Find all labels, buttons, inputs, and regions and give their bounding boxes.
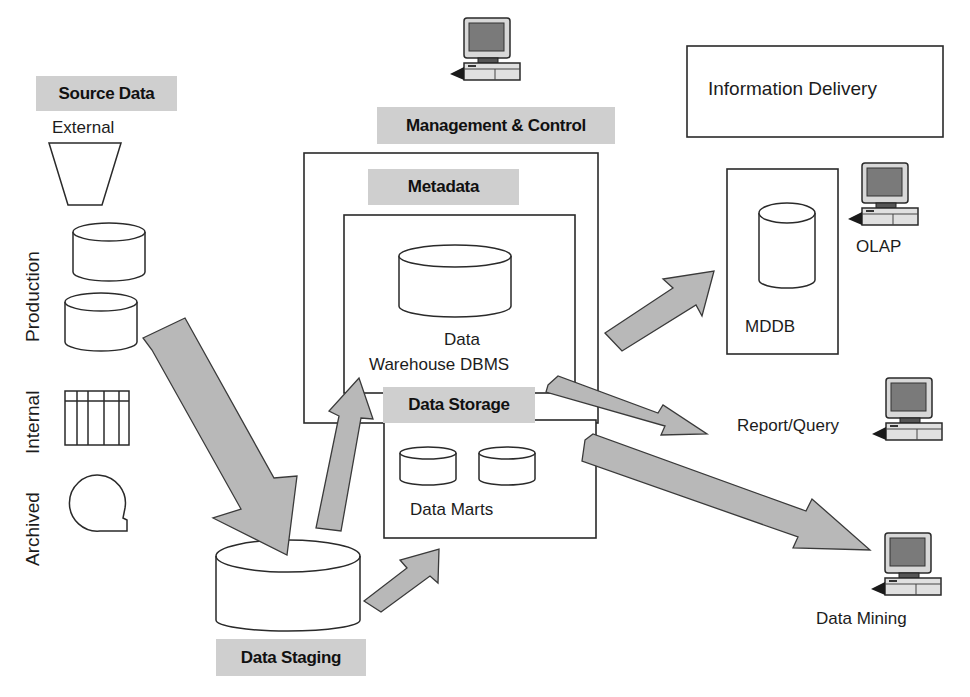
data-staging-db-icon xyxy=(216,540,360,631)
production-label: Production xyxy=(22,251,44,342)
data-storage-label: Data Storage xyxy=(383,387,535,423)
management-control-label: Management & Control xyxy=(377,107,615,144)
data-mart-db-icon-1 xyxy=(400,447,456,485)
dw-dbms-label-line1: Data xyxy=(444,330,480,350)
information-delivery-label: Information Delivery xyxy=(708,78,877,100)
mddb-label: MDDB xyxy=(745,317,795,337)
archived-label: Archived xyxy=(22,492,44,566)
olap-label: OLAP xyxy=(856,237,901,257)
dw-dbms-label-line2: Warehouse DBMS xyxy=(369,355,509,375)
arrow-dw-to-mddb xyxy=(605,271,714,351)
production-db-icon-2 xyxy=(65,293,137,351)
data-mining-label: Data Mining xyxy=(816,609,907,629)
metadata-label: Metadata xyxy=(368,169,519,205)
data-mart-db-icon-2 xyxy=(479,447,535,485)
archived-tape-icon xyxy=(69,475,127,531)
data-mining-computer-icon xyxy=(871,533,941,595)
data-marts-label: Data Marts xyxy=(410,500,493,520)
mddb-database-icon xyxy=(759,203,815,288)
report-query-computer-icon xyxy=(872,378,942,440)
internal-label: Internal xyxy=(22,391,44,454)
external-source-shape xyxy=(49,143,121,205)
arrow-source-to-staging xyxy=(143,318,297,555)
report-query-label: Report/Query xyxy=(737,416,839,436)
arrow-staging-to-datamarts xyxy=(364,549,439,612)
dw-database-icon xyxy=(399,245,511,317)
external-label: External xyxy=(52,118,114,138)
olap-computer-icon xyxy=(848,163,918,225)
source-data-header: Source Data xyxy=(36,76,177,111)
arrow-datamarts-to-mining xyxy=(582,434,870,550)
management-computer-icon xyxy=(450,18,520,80)
production-db-icon-1 xyxy=(73,223,145,281)
internal-table-icon xyxy=(65,391,129,445)
data-staging-label: Data Staging xyxy=(216,639,366,676)
arrow-staging-to-dw xyxy=(316,378,373,531)
